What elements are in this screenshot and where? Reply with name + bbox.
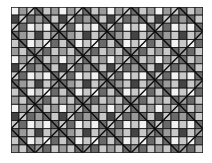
quilt-cell <box>171 15 179 23</box>
quilt-cell <box>59 112 67 120</box>
quilt-cell <box>19 145 27 153</box>
quilt-cell <box>171 72 179 80</box>
quilt-cell <box>179 112 187 120</box>
quilt-cell <box>75 23 83 31</box>
quilt-cell <box>163 56 171 64</box>
quilt-cell <box>35 80 43 88</box>
quilt-cell <box>99 39 107 47</box>
quilt-cell <box>107 64 115 72</box>
quilt-cell <box>155 96 163 104</box>
quilt-cell <box>59 96 67 104</box>
quilt-cell <box>27 121 35 129</box>
quilt-cell <box>11 56 19 64</box>
quilt-cell <box>139 96 147 104</box>
quilt-cell <box>43 96 51 104</box>
quilt-cell <box>11 145 19 153</box>
quilt-cell <box>11 112 19 120</box>
quilt-cell <box>75 137 83 145</box>
quilt-cell <box>27 23 35 31</box>
quilt-cell <box>139 121 147 129</box>
quilt-cell <box>27 39 35 47</box>
quilt-cell <box>75 121 83 129</box>
quilt-cell <box>99 96 107 104</box>
quilt-cell <box>19 96 27 104</box>
quilt-cell <box>43 80 51 88</box>
quilt-cell <box>91 7 99 15</box>
quilt-cell <box>67 7 75 15</box>
quilt-cell <box>91 129 99 137</box>
quilt-cell <box>123 64 131 72</box>
quilt-cell <box>19 31 27 39</box>
quilt-grid <box>11 7 203 153</box>
quilt-cell <box>171 64 179 72</box>
quilt-cell <box>67 23 75 31</box>
quilt-cell <box>179 31 187 39</box>
quilt-cell <box>195 7 203 15</box>
quilt-cell <box>155 137 163 145</box>
quilt-cell <box>35 23 43 31</box>
quilt-cell <box>51 112 59 120</box>
quilt-cell <box>83 64 91 72</box>
quilt-cell <box>67 48 75 56</box>
quilt-cell <box>131 129 139 137</box>
quilt-cell <box>179 129 187 137</box>
quilt-cell <box>107 48 115 56</box>
quilt-cell <box>131 23 139 31</box>
quilt-cell <box>11 64 19 72</box>
quilt-cell <box>43 72 51 80</box>
quilt-cell <box>115 72 123 80</box>
quilt-cell <box>123 88 131 96</box>
quilt-cell <box>131 137 139 145</box>
quilt-cell <box>131 72 139 80</box>
quilt-cell <box>147 88 155 96</box>
quilt-cell <box>67 96 75 104</box>
quilt-cell <box>51 145 59 153</box>
quilt-cell <box>107 39 115 47</box>
quilt-cell <box>99 104 107 112</box>
quilt-cell <box>179 80 187 88</box>
quilt-cell <box>27 137 35 145</box>
quilt-cell <box>83 129 91 137</box>
quilt-cell <box>155 64 163 72</box>
quilt-cell <box>171 39 179 47</box>
quilt-cell <box>195 145 203 153</box>
quilt-cell <box>131 31 139 39</box>
quilt-cell <box>59 104 67 112</box>
quilt-cell <box>123 15 131 23</box>
quilt-cell <box>131 80 139 88</box>
quilt-cell <box>19 121 27 129</box>
quilt-cell <box>19 48 27 56</box>
quilt-cell <box>51 96 59 104</box>
quilt-cell <box>59 145 67 153</box>
quilt-cell <box>83 88 91 96</box>
quilt-cell <box>27 112 35 120</box>
quilt-cell <box>67 121 75 129</box>
quilt-cell <box>19 23 27 31</box>
quilt-cell <box>107 112 115 120</box>
quilt-cell <box>131 39 139 47</box>
quilt-cell <box>187 104 195 112</box>
quilt-cell <box>35 31 43 39</box>
quilt-cell <box>179 23 187 31</box>
quilt-cell <box>11 88 19 96</box>
quilt-cell <box>99 88 107 96</box>
quilt-cell <box>171 23 179 31</box>
quilt-cell <box>195 88 203 96</box>
quilt-cell <box>11 137 19 145</box>
quilt-cell <box>195 56 203 64</box>
quilt-cell <box>163 72 171 80</box>
quilt-cell <box>99 7 107 15</box>
quilt-cell <box>35 88 43 96</box>
quilt-cell <box>67 80 75 88</box>
quilt-cell <box>163 7 171 15</box>
quilt-cell <box>75 112 83 120</box>
quilt-cell <box>107 145 115 153</box>
quilt-cell <box>163 104 171 112</box>
quilt-cell <box>35 15 43 23</box>
quilt-cell <box>115 129 123 137</box>
quilt-cell <box>115 104 123 112</box>
quilt-cell <box>83 23 91 31</box>
quilt-cell <box>123 121 131 129</box>
quilt-cell <box>139 48 147 56</box>
quilt-cell <box>19 80 27 88</box>
